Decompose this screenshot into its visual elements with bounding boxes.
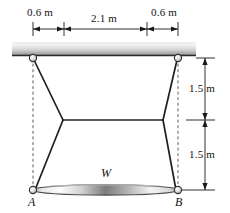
point-label-b: B — [175, 195, 182, 210]
cable-lower-right — [163, 120, 176, 190]
bar-end-pin-a — [29, 186, 36, 193]
dimension-label-span: 2.1 m — [91, 12, 117, 24]
bar-end-pin-b — [174, 186, 181, 193]
pin-joint-right — [174, 54, 181, 61]
weight-label: W — [101, 166, 111, 181]
dimension-label-upper-height: 1.5 m — [189, 82, 215, 94]
dimension-label-lower-height: 1.5 m — [189, 148, 215, 160]
right-dimension-lines — [182, 58, 215, 190]
suspended-bar — [29, 185, 181, 195]
dimension-label-left-offset: 0.6 m — [27, 6, 53, 18]
ceiling-support — [12, 43, 196, 55]
diagram-canvas — [0, 0, 230, 213]
top-dimension-line — [33, 22, 178, 36]
pin-joint-left — [29, 54, 36, 61]
dimension-label-right-offset: 0.6 m — [151, 6, 177, 18]
cable-lower-left — [35, 120, 63, 190]
point-label-a: A — [28, 195, 35, 210]
cable-upper-left — [34, 60, 63, 120]
engineering-diagram: 0.6 m 2.1 m 0.6 m 1.5 m 1.5 m W A B — [0, 0, 230, 213]
cable-upper-right — [163, 60, 177, 120]
